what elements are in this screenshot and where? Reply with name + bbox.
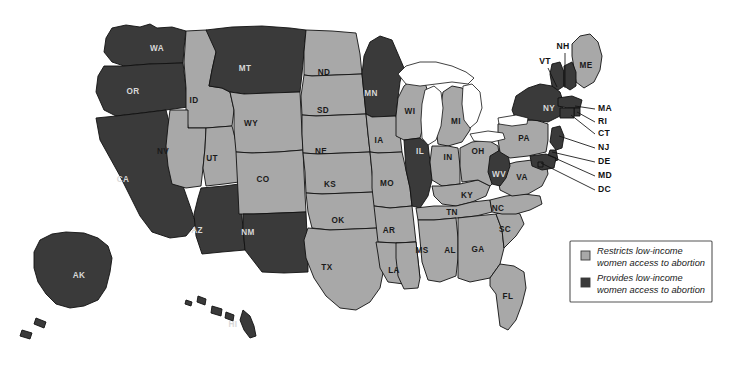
legend-label-restricts-line2: women access to abortion (597, 258, 705, 268)
state-label-nv: NV (157, 147, 169, 156)
state-label-pa: PA (518, 134, 530, 143)
state-wy[interactable] (230, 92, 303, 153)
callout-label-ct: CT (598, 128, 611, 138)
state-label-sd: SD (317, 106, 329, 115)
state-nj[interactable] (550, 126, 564, 150)
state-label-in: IN (444, 153, 453, 162)
callout-label-ma: MA (598, 103, 612, 113)
us-choropleth-map: WAORCAIDNVUTAZMTWYCONMNDSDNEKSOKTXMNIAMO… (0, 0, 729, 366)
state-label-va: VA (516, 173, 528, 182)
state-ak[interactable] (34, 232, 112, 308)
callout-label-nj: NJ (598, 142, 610, 152)
lake-ontario-icon (498, 115, 528, 126)
legend-swatch-restricts (581, 251, 590, 260)
lake-erie-icon (470, 131, 505, 142)
state-dc[interactable] (538, 162, 543, 167)
state-hi[interactable] (240, 310, 256, 338)
state-label-wv: WV (492, 170, 506, 179)
leader-line-md (548, 155, 595, 176)
state-in[interactable] (430, 146, 460, 186)
state-label-al: AL (444, 246, 456, 255)
state-label-mo: MO (380, 179, 394, 188)
leader-line-nj (559, 136, 595, 148)
state-tx[interactable] (304, 228, 384, 310)
state-label-ok: OK (331, 216, 344, 225)
legend-swatch-provides (581, 278, 590, 287)
map-legend: Restricts low-income women access to abo… (570, 241, 712, 302)
state-label-id: ID (190, 96, 199, 105)
state-label-wi: WI (405, 107, 416, 116)
state-label-tx: TX (321, 263, 332, 272)
state-nd[interactable] (304, 30, 362, 76)
state-label-wa: WA (150, 44, 164, 53)
state-label-az: AZ (191, 226, 203, 235)
state-label-ms: MS (415, 246, 428, 255)
state-label-il: IL (416, 147, 424, 156)
state-label-or: OR (126, 87, 139, 96)
state-label-ks: KS (324, 180, 336, 189)
state-label-ca: CA (117, 175, 130, 184)
leader-line-dc (541, 163, 595, 190)
state-label-fl: FL (503, 292, 514, 301)
state-ne[interactable] (302, 114, 370, 154)
callout-label-md: MD (598, 170, 612, 180)
state-label-hi: HI (229, 320, 238, 329)
state-label-oh: OH (471, 147, 484, 156)
state-ak-island-1 (20, 330, 32, 339)
leader-line-ri (577, 112, 595, 122)
state-nm[interactable] (243, 212, 308, 273)
state-label-nd: ND (318, 68, 331, 77)
legend-label-provides-line2: women access to abortion (597, 285, 705, 295)
state-hi-island-1 (197, 296, 206, 305)
leader-line-de (552, 152, 595, 162)
state-ks[interactable] (303, 152, 374, 194)
state-ct[interactable] (560, 108, 574, 118)
state-wa[interactable] (104, 24, 186, 66)
state-label-ga: GA (471, 245, 484, 254)
legend-label-provides-line1: Provides low-income (597, 273, 683, 283)
state-label-ny: NY (543, 104, 555, 113)
leader-line-ct (571, 115, 595, 134)
state-or[interactable] (96, 63, 188, 116)
callout-label-dc: DC (598, 184, 611, 194)
state-label-nc: NC (492, 204, 505, 213)
state-sd[interactable] (301, 74, 366, 116)
us-map-figure: WAORCAIDNVUTAZMTWYCONMNDSDNEKSOKTXMNIAMO… (0, 0, 729, 366)
state-az[interactable] (194, 184, 245, 254)
callout-label-ri: RI (598, 116, 607, 126)
callout-label-de: DE (598, 156, 611, 166)
callout-label-vt: VT (539, 56, 551, 66)
state-label-la: LA (388, 266, 400, 275)
state-label-ak: AK (73, 271, 86, 280)
state-co[interactable] (236, 150, 306, 214)
state-label-mn: MN (364, 89, 378, 98)
state-label-tn: TN (446, 208, 458, 217)
legend-label-restricts-line1: Restricts low-income (597, 246, 683, 256)
lake-huron-icon (462, 84, 482, 128)
state-label-ne: NE (315, 147, 327, 156)
state-mt[interactable] (206, 26, 306, 94)
state-label-sc: SC (499, 225, 511, 234)
state-ar[interactable] (374, 206, 416, 243)
state-label-wy: WY (244, 119, 258, 128)
state-label-ut: UT (206, 154, 218, 163)
state-label-mt: MT (239, 64, 252, 73)
state-hi-island-0 (185, 300, 192, 306)
state-label-ky: KY (461, 191, 473, 200)
state-label-nm: NM (241, 228, 255, 237)
state-label-ia: IA (375, 136, 384, 145)
state-hi-island-2 (211, 306, 222, 316)
lake-superior-icon (398, 62, 474, 86)
state-label-me: ME (579, 61, 592, 70)
states-layer (20, 24, 602, 339)
state-label-mi: MI (451, 117, 461, 126)
state-label-co: CO (256, 175, 269, 184)
state-ak-island-0 (34, 318, 46, 328)
callout-label-nh: NH (556, 41, 569, 51)
state-label-ar: AR (383, 226, 396, 235)
